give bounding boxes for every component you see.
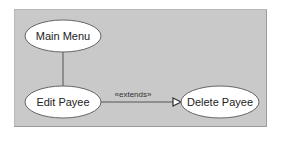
extends-label: «extends»	[115, 90, 152, 99]
use-case-main-menu[interactable]: Main Menu	[25, 20, 101, 52]
extends-arrowhead-icon	[173, 98, 181, 106]
use-case-label: Edit Payee	[36, 96, 89, 108]
use-case-label: Delete Payee	[187, 96, 253, 108]
use-case-diagram: «extends» Main Menu Edit Payee Delete Pa…	[0, 0, 281, 141]
use-case-delete-payee[interactable]: Delete Payee	[181, 86, 259, 118]
use-case-edit-payee[interactable]: Edit Payee	[25, 86, 101, 118]
use-case-label: Main Menu	[36, 30, 90, 42]
